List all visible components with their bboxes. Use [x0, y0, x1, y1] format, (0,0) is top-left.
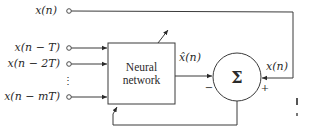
input-x-n-minus-t: x(n − T) [15, 41, 107, 54]
cropped-text-fragment [296, 113, 298, 116]
input-label-x-n: x(n) [35, 4, 57, 17]
sigma-icon: Σ [231, 68, 242, 87]
minus-sign: − [205, 82, 213, 93]
target-input-label: x(n) [266, 60, 288, 73]
input-x-n-minus-2t: x(n − 2T) [8, 57, 107, 70]
input-terminal-icon [67, 95, 72, 100]
error-feedback-path [113, 101, 237, 125]
cropped-text-fragment [296, 98, 298, 105]
input-label-x-n-minus-mt: x(n − mT) [4, 90, 60, 103]
neural-network-prediction-diagram: x(n) x(n − T) x(n − 2T) ⋮ x(n − mT) Neur… [0, 0, 310, 134]
summing-junction: Σ − + [205, 53, 269, 101]
plus-sign: + [261, 82, 269, 93]
predicted-output-label: x̂(n) [179, 51, 201, 64]
input-terminal-icon [67, 62, 72, 67]
input-x-n-minus-mt: x(n − mT) [4, 90, 107, 103]
block-label-line1: Neural [126, 61, 157, 73]
adaptation-arrow-icon [158, 30, 168, 43]
input-terminal-icon [67, 46, 72, 51]
ellipsis-icon: ⋮ [63, 75, 73, 86]
block-label-line2: network [123, 74, 161, 86]
input-label-x-n-minus-t: x(n − T) [15, 41, 60, 54]
input-terminal-icon [67, 9, 72, 14]
input-label-x-n-minus-2t: x(n − 2T) [8, 57, 60, 70]
neural-network-block: Neural network [108, 30, 175, 104]
